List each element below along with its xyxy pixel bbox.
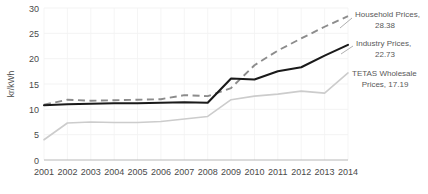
x-tick-label: 2001 — [34, 167, 54, 177]
y-tick-label: 10 — [29, 105, 39, 115]
y-tick-label: 15 — [29, 80, 39, 90]
annotation-household-label: Household Prices, — [355, 10, 420, 19]
chart-container: 30 25 20 15 10 5 0 kr/kWh 2001 2002 2003… — [0, 0, 428, 194]
x-tick-label: 2004 — [104, 167, 124, 177]
x-tick-label: 2007 — [174, 167, 194, 177]
x-tick-label: 2003 — [81, 167, 101, 177]
x-tick-label: 2013 — [315, 167, 335, 177]
x-tick-label: 2014 — [338, 167, 358, 177]
y-tick-label: 0 — [34, 156, 39, 166]
y-tick-label: 5 — [34, 130, 39, 140]
annotation-household-value: 28.38 — [375, 21, 396, 30]
x-tick-label: 2002 — [57, 167, 77, 177]
x-tick-label: 2009 — [221, 167, 241, 177]
x-tick-label: 2010 — [244, 167, 264, 177]
annotation-industry: Industry Prices, 22.73 — [356, 39, 411, 59]
x-tick-label: 2006 — [151, 167, 171, 177]
annotation-industry-value: 22.73 — [375, 50, 396, 59]
line-chart: 30 25 20 15 10 5 0 kr/kWh 2001 2002 2003… — [0, 0, 428, 194]
y-axis-ticks: 30 25 20 15 10 5 0 — [29, 4, 39, 166]
x-tick-label: 2012 — [291, 167, 311, 177]
annotation-tetas: TETAS Wholesale Prices, 17.19 — [352, 69, 417, 89]
annotation-tetas-label: TETAS Wholesale — [352, 69, 417, 78]
annotation-industry-label: Industry Prices, — [356, 39, 411, 48]
annotation-tetas-value: Prices, 17.19 — [362, 80, 409, 89]
x-axis-ticks: 2001 2002 2003 2004 2005 2006 2007 2008 … — [34, 167, 358, 177]
annotation-household: Household Prices, 28.38 — [355, 10, 420, 30]
y-tick-label: 30 — [29, 4, 39, 14]
x-tick-label: 2005 — [127, 167, 147, 177]
y-axis-title: kr/kWh — [6, 71, 16, 98]
x-tick-label: 2008 — [198, 167, 218, 177]
y-tick-label: 20 — [29, 54, 39, 64]
x-tick-label: 2011 — [268, 167, 287, 177]
y-tick-label: 25 — [29, 29, 39, 39]
